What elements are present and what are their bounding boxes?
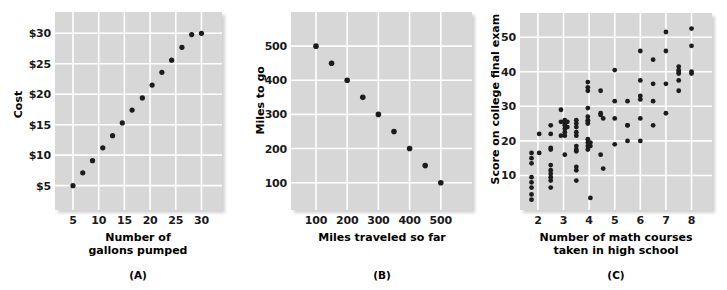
ytick-label: 400 xyxy=(265,74,287,87)
data-point xyxy=(407,146,413,152)
three-scatterplots-figure: $5$10$15$20$25$30 51015202530 Cost Numbe… xyxy=(0,0,727,290)
data-point xyxy=(585,80,590,85)
data-point xyxy=(129,107,134,112)
data-point xyxy=(601,116,606,121)
panel-b-y-axis-title: Miles to go xyxy=(254,75,267,135)
xtick-label: 5 xyxy=(611,214,618,227)
data-point xyxy=(529,185,534,190)
data-point xyxy=(638,116,643,121)
panel-c-x-axis-title: Number of math courses taken in high sch… xyxy=(510,232,722,258)
data-point xyxy=(612,99,617,104)
ytick-label: 300 xyxy=(265,108,287,121)
ytick-label: 10 xyxy=(501,169,516,182)
data-point xyxy=(562,133,567,138)
data-point xyxy=(585,121,590,126)
panel-a: $5$10$15$20$25$30 51015202530 Cost Numbe… xyxy=(0,0,242,290)
data-point xyxy=(612,68,617,73)
data-point xyxy=(537,151,542,156)
data-point xyxy=(529,156,534,161)
xtick-label: 7 xyxy=(662,214,669,227)
data-point xyxy=(529,197,534,202)
panel-c-y-axis-title: Score on college final exam xyxy=(489,25,502,185)
data-point xyxy=(537,132,542,137)
data-point xyxy=(529,175,534,180)
data-point xyxy=(664,81,669,86)
data-point xyxy=(574,125,579,130)
data-point xyxy=(625,99,630,104)
xtick-label: 6 xyxy=(637,214,644,227)
data-point xyxy=(664,30,669,35)
data-point xyxy=(651,99,656,104)
data-point xyxy=(559,107,564,112)
xtick-label: 500 xyxy=(430,214,452,227)
data-point xyxy=(664,49,669,54)
xtick-label: 300 xyxy=(367,214,389,227)
data-point xyxy=(548,178,553,183)
xtick-label: 200 xyxy=(336,214,358,227)
xtick-label: 5 xyxy=(69,214,76,227)
panel-a-xtick-labels: 51015202530 xyxy=(55,214,222,230)
xtick-label: 25 xyxy=(168,214,183,227)
data-point xyxy=(638,138,643,143)
data-point xyxy=(585,88,590,93)
data-point xyxy=(140,95,145,100)
data-point xyxy=(70,183,75,188)
panel-c-caption: (C) xyxy=(510,269,722,281)
panel-a-y-axis-title: Cost xyxy=(12,75,25,135)
data-point xyxy=(422,163,428,169)
data-point xyxy=(100,145,105,150)
data-point xyxy=(90,158,95,163)
data-point xyxy=(638,97,643,102)
xtick-label: 100 xyxy=(305,214,327,227)
data-point xyxy=(548,132,553,137)
panel-a-plot-area xyxy=(55,12,222,210)
data-point xyxy=(676,88,681,93)
ytick-label: 100 xyxy=(265,176,287,189)
data-point xyxy=(574,168,579,173)
panel-c: 1020304050 2345678 Score on college fina… xyxy=(484,0,727,290)
data-point xyxy=(529,192,534,197)
data-point xyxy=(638,49,643,54)
ytick-label: $25 xyxy=(29,57,51,70)
data-point xyxy=(689,26,694,31)
data-point xyxy=(689,71,694,76)
panel-c-canvas xyxy=(520,13,712,210)
panel-c-xtick-labels: 2345678 xyxy=(520,214,712,230)
data-point xyxy=(689,43,694,48)
xtick-label: 20 xyxy=(143,214,158,227)
data-point xyxy=(391,129,397,135)
data-point xyxy=(548,185,553,190)
data-point xyxy=(625,123,630,128)
ytick-label: $10 xyxy=(29,149,51,162)
data-point xyxy=(598,152,603,157)
data-point xyxy=(588,144,593,149)
xtick-label: 2 xyxy=(534,214,541,227)
data-point xyxy=(638,78,643,83)
xtick-label: 400 xyxy=(398,214,420,227)
data-point xyxy=(529,161,534,166)
data-point xyxy=(612,142,617,147)
xtick-label: 15 xyxy=(117,214,132,227)
data-point xyxy=(120,120,125,125)
data-point xyxy=(548,163,553,168)
data-point xyxy=(676,71,681,76)
xtick-label: 30 xyxy=(194,214,209,227)
panel-a-x-axis-title: Number of gallons pumped xyxy=(46,232,230,258)
data-point xyxy=(588,196,593,201)
ytick-label: 40 xyxy=(501,65,516,78)
data-point xyxy=(344,77,350,83)
ytick-label: $20 xyxy=(29,88,51,101)
data-point xyxy=(625,138,630,143)
data-point xyxy=(664,111,669,116)
data-point xyxy=(150,83,155,88)
data-point xyxy=(529,180,534,185)
ytick-label: $5 xyxy=(36,179,51,192)
data-point xyxy=(585,106,590,111)
panel-b: 100200300400500 100200300400500 Miles to… xyxy=(242,0,484,290)
data-point xyxy=(651,123,656,128)
data-point xyxy=(574,133,579,138)
panel-b-plot-area xyxy=(291,12,472,210)
data-point xyxy=(110,133,115,138)
xtick-label: 10 xyxy=(91,214,106,227)
data-point xyxy=(565,125,570,130)
